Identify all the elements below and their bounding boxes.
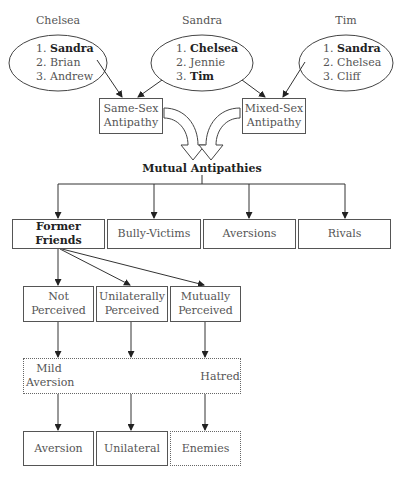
- category-bully-victims: Bully-Victims: [107, 219, 201, 249]
- outcome-aversion: Aversion: [23, 431, 94, 466]
- ranking-item: 3. Tim: [176, 70, 238, 84]
- ranking-item: 3. Andrew: [36, 70, 94, 84]
- outcome-enemies: Enemies: [170, 431, 241, 466]
- hatred-label: Hatred: [200, 370, 240, 384]
- mild-aversion-label: Mild Aversion: [26, 362, 72, 390]
- same-sex-curved-arrow: [164, 108, 205, 160]
- mixed-sex-curved-arrow: [199, 108, 240, 160]
- person-name-sandra: Sandra: [162, 14, 242, 28]
- ranking-item: 1. Sandra: [323, 42, 381, 56]
- ranking-item: 3. Cliff: [323, 70, 381, 84]
- not-perceived-box: Not Perceived: [23, 286, 94, 322]
- person-name-tim: Tim: [306, 14, 386, 28]
- mutually-perceived-box: Mutually Perceived: [170, 286, 241, 322]
- ranking-item: 1. Chelsea: [176, 42, 238, 56]
- ranking-item: 2. Brian: [36, 56, 94, 70]
- category-former-friends: Former Friends: [12, 219, 105, 249]
- sandra-ranking-list: 1. Chelsea 2. Jennie 3. Tim: [176, 42, 238, 84]
- unilaterally-perceived-box: Unilaterally Perceived: [96, 286, 168, 322]
- same-sex-antipathy-box: Same-Sex Antipathy: [99, 98, 163, 134]
- ranking-item: 2. Jennie: [176, 56, 238, 70]
- mixed-sex-antipathy-box: Mixed-Sex Antipathy: [242, 98, 306, 134]
- category-aversions: Aversions: [203, 219, 296, 249]
- category-rivals: Rivals: [298, 219, 391, 249]
- person-name-chelsea: Chelsea: [18, 14, 98, 28]
- mutual-antipathies-title: Mutual Antipathies: [142, 162, 262, 176]
- chelsea-ranking-list: 1. Sandra 2. Brian 3. Andrew: [36, 42, 94, 84]
- outcome-unilateral: Unilateral: [96, 431, 168, 466]
- ranking-item: 2. Chelsea: [323, 56, 381, 70]
- ranking-item: 1. Sandra: [36, 42, 94, 56]
- tim-ranking-list: 1. Sandra 2. Chelsea 3. Cliff: [323, 42, 381, 84]
